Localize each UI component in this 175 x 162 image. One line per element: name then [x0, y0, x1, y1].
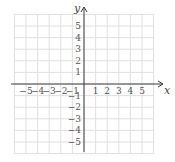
x-tick-label: 4 — [128, 86, 134, 96]
y-tick-label: 4 — [75, 33, 81, 43]
y-tick-label: −4 — [68, 125, 82, 135]
y-tick-label: −5 — [68, 137, 82, 147]
x-tick-label: 3 — [116, 86, 122, 96]
x-tick-label: 5 — [139, 86, 145, 96]
y-tick-label: −1 — [68, 91, 81, 101]
x-tick-labels: −5−4−3−2−112345 — [19, 86, 145, 96]
y-tick-label: −3 — [68, 114, 82, 124]
coordinate-plane: x y −5−4−3−2−112345 54321−1−2−3−4−5 — [0, 0, 175, 162]
x-tick-label: 2 — [104, 86, 110, 96]
y-tick-label: 5 — [75, 21, 81, 31]
x-tick-label: 1 — [93, 86, 99, 96]
y-axis-label: y — [73, 2, 81, 15]
y-tick-label: −2 — [68, 102, 81, 112]
y-tick-label: 3 — [75, 44, 81, 54]
y-tick-label: 1 — [75, 67, 81, 77]
y-tick-label: 2 — [75, 56, 81, 66]
x-axis-label: x — [164, 84, 171, 97]
